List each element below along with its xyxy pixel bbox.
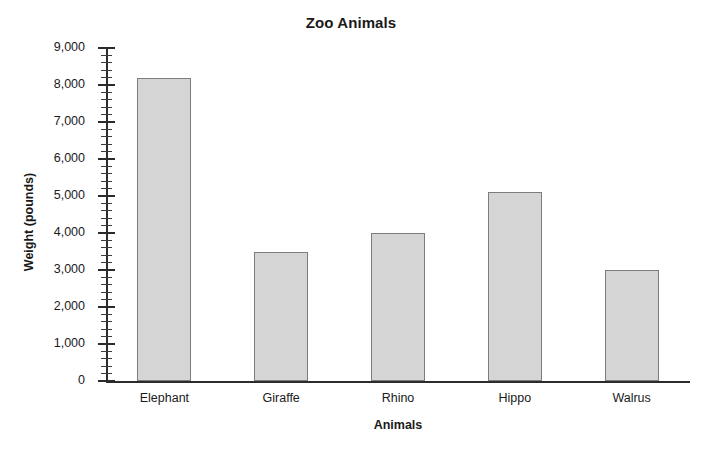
y-axis-major-tick: 3,000 bbox=[98, 269, 115, 271]
bar-hippo[interactable] bbox=[488, 192, 542, 381]
y-axis-tick-label: 9,000 bbox=[54, 40, 85, 54]
y-axis-minor-tick bbox=[101, 218, 112, 219]
x-axis-line bbox=[106, 381, 690, 383]
y-axis-tick-label: 5,000 bbox=[54, 188, 85, 202]
y-axis-minor-tick bbox=[101, 181, 112, 182]
y-axis-minor-tick bbox=[101, 247, 112, 248]
y-axis-major-tick: 8,000 bbox=[98, 84, 115, 86]
y-axis-minor-tick bbox=[101, 114, 112, 115]
y-axis-minor-tick bbox=[101, 151, 112, 152]
y-axis-minor-tick bbox=[101, 77, 112, 78]
y-axis-minor-tick bbox=[101, 329, 112, 330]
y-axis-major-tick: 6,000 bbox=[98, 158, 115, 160]
x-axis-tick-label-elephant: Elephant bbox=[140, 391, 189, 405]
y-axis-minor-tick bbox=[101, 62, 112, 63]
y-axis-minor-tick bbox=[101, 255, 112, 256]
y-axis-minor-tick bbox=[101, 358, 112, 359]
y-axis-major-tick: 5,000 bbox=[98, 195, 115, 197]
y-axis-major-tick: 7,000 bbox=[98, 121, 115, 123]
y-axis-minor-tick bbox=[101, 136, 112, 137]
y-axis-minor-tick bbox=[101, 144, 112, 145]
y-axis-major-tick: 0 bbox=[98, 380, 115, 382]
y-axis-tick-label: 2,000 bbox=[54, 299, 85, 313]
y-axis-minor-tick bbox=[101, 373, 112, 374]
y-axis-minor-tick bbox=[101, 107, 112, 108]
plot-area: 01,0002,0003,0004,0005,0006,0007,0008,00… bbox=[106, 46, 690, 383]
y-axis-minor-tick bbox=[101, 99, 112, 100]
y-axis-minor-tick bbox=[101, 366, 112, 367]
y-axis-minor-tick bbox=[101, 321, 112, 322]
y-axis-minor-tick bbox=[101, 225, 112, 226]
y-axis-minor-tick bbox=[101, 129, 112, 130]
y-axis-minor-tick bbox=[101, 166, 112, 167]
y-axis-minor-tick bbox=[101, 351, 112, 352]
y-axis-minor-tick bbox=[101, 210, 112, 211]
y-axis-major-tick: 9,000 bbox=[98, 47, 115, 49]
y-axis-minor-tick bbox=[101, 336, 112, 337]
y-axis-title: Weight (pounds) bbox=[22, 132, 36, 312]
y-axis-major-tick: 1,000 bbox=[98, 343, 115, 345]
y-axis-minor-tick bbox=[101, 203, 112, 204]
y-axis-line bbox=[106, 48, 108, 381]
y-axis-minor-tick bbox=[101, 55, 112, 56]
y-axis-minor-tick bbox=[101, 292, 112, 293]
x-axis-tick-label-rhino: Rhino bbox=[382, 391, 415, 405]
x-axis-title: Animals bbox=[106, 418, 690, 432]
y-axis-tick-label: 4,000 bbox=[54, 225, 85, 239]
x-axis-tick-label-giraffe: Giraffe bbox=[263, 391, 300, 405]
bar-walrus[interactable] bbox=[605, 270, 659, 381]
bar-chart: Zoo Animals Weight (pounds) 01,0002,0003… bbox=[0, 0, 702, 450]
x-axis-tick-label-walrus: Walrus bbox=[612, 391, 650, 405]
y-axis-minor-tick bbox=[101, 314, 112, 315]
y-axis-minor-tick bbox=[101, 188, 112, 189]
y-axis-minor-tick bbox=[101, 284, 112, 285]
y-axis-minor-tick bbox=[101, 92, 112, 93]
y-axis-minor-tick bbox=[101, 173, 112, 174]
bar-elephant[interactable] bbox=[137, 78, 191, 381]
y-axis-minor-tick bbox=[101, 240, 112, 241]
y-axis-tick-label: 7,000 bbox=[54, 114, 85, 128]
y-axis-tick-label: 3,000 bbox=[54, 262, 85, 276]
y-axis-tick-label: 6,000 bbox=[54, 151, 85, 165]
y-axis-minor-tick bbox=[101, 70, 112, 71]
y-axis-major-tick: 2,000 bbox=[98, 306, 115, 308]
y-axis-minor-tick bbox=[101, 262, 112, 263]
bar-rhino[interactable] bbox=[371, 233, 425, 381]
bar-giraffe[interactable] bbox=[254, 252, 308, 382]
chart-title: Zoo Animals bbox=[0, 14, 702, 31]
x-axis-tick-label-hippo: Hippo bbox=[498, 391, 531, 405]
y-axis-tick-label: 1,000 bbox=[54, 336, 85, 350]
y-axis-tick-label: 8,000 bbox=[54, 77, 85, 91]
y-axis-tick-label: 0 bbox=[78, 373, 85, 387]
y-axis-major-tick: 4,000 bbox=[98, 232, 115, 234]
y-axis-minor-tick bbox=[101, 277, 112, 278]
y-axis-minor-tick bbox=[101, 299, 112, 300]
